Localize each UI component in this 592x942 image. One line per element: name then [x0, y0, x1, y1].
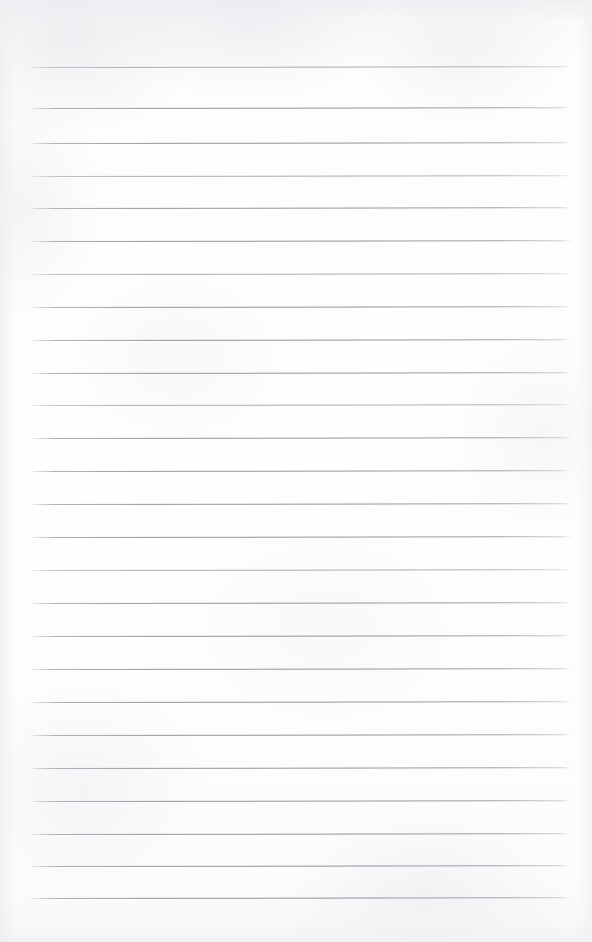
rule-line	[28, 240, 573, 242]
rule-line	[28, 142, 573, 144]
rule-line	[28, 339, 573, 341]
rule-line	[28, 734, 573, 736]
rule-line	[28, 569, 573, 571]
rule-line	[28, 66, 573, 68]
rule-line	[28, 865, 573, 867]
rule-line	[28, 602, 573, 604]
rule-line	[28, 536, 573, 538]
rule-line	[28, 503, 573, 505]
rule-line	[28, 470, 573, 472]
rule-line	[28, 107, 573, 109]
rule-line	[28, 437, 573, 439]
rule-line	[28, 372, 573, 374]
rule-line	[28, 635, 573, 637]
rule-line	[28, 701, 573, 703]
rule-line	[28, 800, 573, 802]
rule-line	[28, 833, 573, 835]
notebook-page	[0, 0, 592, 942]
rule-line	[28, 306, 573, 308]
rule-line	[28, 273, 573, 275]
rule-line	[28, 175, 573, 177]
ruled-lines-group	[0, 0, 592, 942]
rule-line	[28, 668, 573, 670]
rule-line	[28, 767, 573, 769]
rule-line	[28, 897, 573, 899]
rule-line	[28, 404, 573, 406]
rule-line	[28, 207, 573, 209]
